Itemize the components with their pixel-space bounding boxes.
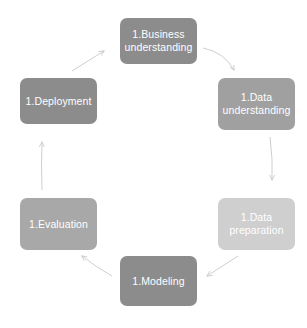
node-label-business-understanding: 1.Business understanding [124, 28, 193, 54]
node-label-data-preparation: 1.Data preparation [222, 211, 291, 237]
arrow-deployment-to-business [72, 51, 104, 71]
arrow-modeling-to-evaluation [82, 256, 112, 276]
node-deployment[interactable]: 1.Deployment [20, 78, 97, 124]
node-label-deployment: 1.Deployment [24, 95, 93, 108]
node-business-understanding[interactable]: 1.Business understanding [120, 18, 197, 64]
node-label-modeling: 1.Modeling [124, 275, 193, 288]
crisp-dm-diagram: 1.Business understanding 1.Data understa… [0, 0, 307, 328]
arrow-data-understanding-to-data-preparation [270, 137, 272, 180]
arrow-data-preparation-to-modeling [207, 256, 238, 276]
node-data-preparation[interactable]: 1.Data preparation [218, 198, 295, 250]
node-data-understanding[interactable]: 1.Data understanding [218, 78, 295, 130]
arrow-evaluation-to-deployment [42, 142, 43, 190]
arrow-business-to-data-understanding [203, 48, 234, 70]
node-label-evaluation: 1.Evaluation [24, 218, 93, 231]
node-modeling[interactable]: 1.Modeling [120, 256, 197, 306]
node-evaluation[interactable]: 1.Evaluation [20, 198, 97, 250]
node-label-data-understanding: 1.Data understanding [222, 91, 291, 117]
